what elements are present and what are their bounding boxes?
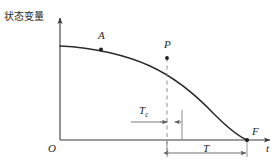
point-p-marker: [165, 56, 169, 60]
y-axis-label: 状态变量: [4, 12, 44, 22]
state-variable-decay-figure: 状态变量 t O A P F Tc T: [0, 0, 278, 168]
interval-t-label: T: [203, 143, 209, 154]
interval-tc-subscript: c: [145, 110, 148, 119]
point-a-marker: [99, 48, 103, 52]
x-axis-label: t: [266, 143, 269, 154]
interval-tc-label: Tc: [139, 105, 148, 119]
point-f-label: F: [252, 126, 259, 137]
figure-canvas: [0, 0, 278, 168]
state-decay-curve: [60, 46, 247, 140]
point-f-marker: [245, 138, 249, 142]
point-p-label: P: [164, 39, 171, 50]
origin-label: O: [48, 143, 56, 154]
point-a-label: A: [98, 30, 105, 41]
